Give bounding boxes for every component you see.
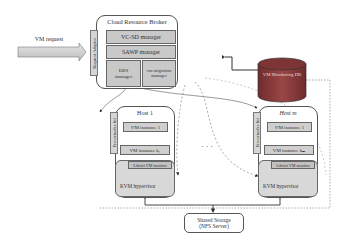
vm-request-label: VM request	[24, 36, 74, 42]
host-1-vm-instance-1: VM instance 1	[123, 122, 168, 132]
host-m-vm-last-label: VM instance kₘ	[273, 147, 305, 153]
host-1-vm-last-label: VM instance k₁	[129, 148, 160, 153]
vm-migration-manager: vm migration manager	[142, 60, 176, 87]
vcsd-manager-label: VC-SD manager	[121, 34, 161, 40]
host-1-hypervisor-label: KVM hypervisor	[120, 183, 156, 189]
host-1-libvirt-monitor: Libvirt VM monitor	[128, 161, 172, 169]
host-m-vm-instance-1: VM instance 1	[267, 122, 312, 132]
vm-migration-manager-label: vm migration manager	[145, 69, 173, 78]
vm-monitoring-db-label: VM Monitoring DB	[263, 72, 302, 77]
host-1-proc-interface: Procernodes Inf	[110, 112, 118, 154]
host-m-proc-interface-label: Procernodes Inf	[255, 118, 260, 147]
nfs-server-label: (NFS Server)	[199, 223, 228, 229]
sawp-manager-label: SAWP manager	[122, 49, 160, 55]
host-m-title: Host m	[259, 110, 317, 116]
host-m-vm-first-label: VM instance 1	[275, 125, 304, 130]
host-m-vm-instance-k: VM instance kₘ	[264, 145, 314, 155]
host-1-proc-interface-label: Procernodes Inf	[112, 118, 117, 147]
host-1-vm-first-label: VM instance 1	[131, 125, 160, 130]
vm-monitoring-db: VM Monitoring DB	[262, 72, 302, 78]
broker-title: Cloud Resource Broker	[97, 18, 177, 25]
request-adaptor: Request Adaptor	[90, 30, 98, 76]
shared-storage: Shared Storage (NFS Server)	[184, 213, 244, 233]
host-m-proc-interface: Procernodes Inf	[253, 112, 261, 154]
host-m-libvirt-monitor: Libvirt VM monitor	[271, 161, 315, 169]
drs-manager-label: DRS manager	[112, 68, 135, 79]
hosts-ellipsis: · · ·	[192, 142, 222, 151]
host-1-vm-instance-k: VM instance k₁	[120, 145, 170, 155]
drs-manager: DRS manager	[106, 60, 141, 87]
host-1-libvirt-label: Libvirt VM monitor	[133, 163, 167, 168]
request-adaptor-label: Request Adaptor	[92, 38, 97, 69]
sawp-manager: SAWP manager	[106, 45, 176, 59]
host-m-hypervisor-label: KVM hypervisor	[263, 183, 299, 189]
vcsd-manager: VC-SD manager	[106, 30, 176, 44]
host-1-title: Host 1	[116, 110, 174, 116]
host-m-libvirt-label: Libvirt VM monitor	[276, 163, 310, 168]
